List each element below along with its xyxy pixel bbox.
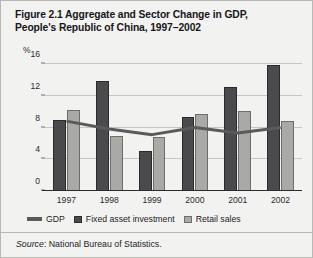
x-axis-tick-label: 1999: [143, 195, 162, 205]
source-note: Source: National Bureau of Statistics.: [16, 239, 162, 249]
y-axis-unit-label: %: [23, 45, 30, 55]
x-axis-line: [42, 190, 302, 191]
x-axis-tick-label: 2001: [228, 195, 247, 205]
legend-item-retail-sales: Retail sales: [184, 214, 241, 224]
divider-rule: [1, 232, 312, 233]
x-axis-tick-label: 2000: [185, 195, 204, 205]
plot-area: 0481216 199719981999200020012002: [45, 64, 302, 191]
legend-label-retail-sales: Retail sales: [196, 214, 241, 224]
light-square-swatch-icon: [184, 216, 192, 223]
legend-item-fixed-asset-investment: Fixed asset investment: [74, 214, 175, 224]
source-value: : National Bureau of Statistics.: [44, 239, 162, 249]
line-swatch-icon: [27, 217, 42, 220]
y-axis-tick-label: 0: [35, 176, 40, 186]
x-axis-tick-label: 1997: [57, 195, 76, 205]
y-axis-tick-label: 16: [30, 49, 40, 59]
y-axis-tick-label: 4: [35, 144, 40, 154]
figure-title-line-2: People's Republic of China, 1997–2002: [15, 22, 201, 33]
source-label: Source: [16, 239, 44, 249]
gdp-line-path: [66, 121, 280, 134]
y-axis-tick-label: 8: [35, 113, 40, 123]
legend-item-gdp: GDP: [27, 214, 65, 224]
dark-square-swatch-icon: [74, 216, 82, 223]
figure-title: Figure 2.1 Aggregate and Sector Change i…: [15, 8, 303, 34]
y-axis-tick-label: 12: [30, 81, 40, 91]
legend-label-gdp: GDP: [46, 214, 65, 224]
x-axis-tick-label: 2002: [271, 195, 290, 205]
figure-container: Figure 2.1 Aggregate and Sector Change i…: [0, 0, 313, 258]
gdp-line-series: [45, 64, 302, 191]
figure-title-line-1: Figure 2.1 Aggregate and Sector Change i…: [15, 9, 248, 20]
chart-legend: GDP Fixed asset investment Retail sales: [27, 214, 241, 224]
legend-label-fixed-asset-investment: Fixed asset investment: [86, 214, 175, 224]
x-axis-tick-label: 1998: [100, 195, 119, 205]
